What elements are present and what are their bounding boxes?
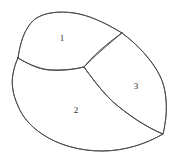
region-1-label: 1 bbox=[60, 34, 65, 43]
region-2-label: 2 bbox=[74, 106, 79, 115]
region-3-label: 3 bbox=[134, 82, 139, 91]
figure-canvas: 1 2 3 bbox=[0, 0, 178, 166]
region-diagram-svg bbox=[0, 0, 178, 166]
